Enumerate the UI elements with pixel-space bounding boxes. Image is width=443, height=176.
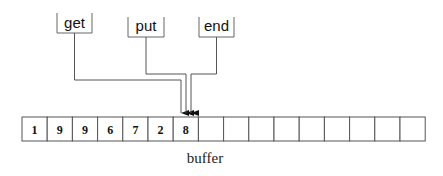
put-pointer-label: put	[128, 17, 164, 37]
buffer-pointer-diagram: get put end 1996728 buffer	[0, 0, 443, 176]
buffer-cell	[299, 117, 324, 141]
buffer-caption: buffer	[187, 150, 223, 166]
buffer-cell-value: 9	[82, 123, 88, 137]
get-pointer-label: get	[57, 13, 92, 33]
buffer-cell	[350, 117, 375, 141]
buffer-cell-value: 6	[107, 123, 113, 137]
buffer-cell: 1	[22, 117, 47, 141]
end-pointer-arrow	[191, 37, 217, 113]
buffer-cell	[324, 117, 349, 141]
buffer-cell	[224, 117, 249, 141]
buffer-cell-value: 2	[158, 123, 164, 137]
buffer-cell	[249, 117, 274, 141]
end-label-text: end	[204, 17, 229, 34]
buffer-cell-value: 8	[183, 123, 189, 137]
get-label-text: get	[64, 14, 86, 31]
buffer-cell-value: 1	[32, 123, 38, 137]
get-pointer-arrow	[75, 33, 182, 113]
buffer-cell	[400, 117, 425, 141]
buffer-cell: 8	[173, 117, 198, 141]
put-pointer-arrow	[146, 37, 186, 113]
buffer-cell: 6	[98, 117, 123, 141]
end-pointer-label: end	[199, 17, 234, 37]
buffer-cell: 7	[123, 117, 148, 141]
buffer-cell: 9	[47, 117, 72, 141]
buffer-cell	[274, 117, 299, 141]
buffer-cell: 2	[148, 117, 173, 141]
buffer-cell	[375, 117, 400, 141]
put-label-text: put	[136, 17, 158, 34]
buffer-array: 1996728	[22, 117, 425, 141]
buffer-cell: 9	[72, 117, 97, 141]
buffer-cell-value: 7	[132, 123, 138, 137]
buffer-cell	[198, 117, 223, 141]
buffer-cell-value: 9	[57, 123, 63, 137]
